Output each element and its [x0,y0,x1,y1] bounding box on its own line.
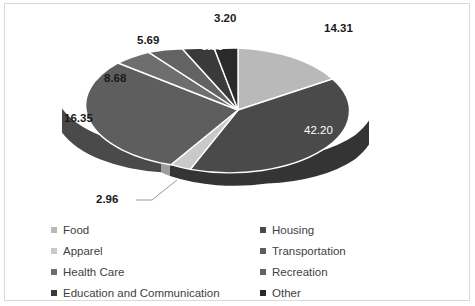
legend-swatch-icon-apparel [51,248,57,254]
legend-label-education-and-communication: Education and Communication [63,287,220,299]
data-label-recreation: 5.69 [137,34,159,46]
chart-legend: Food Apparel Health Care Education and C… [5,216,471,300]
data-label-transportation: 16.35 [64,112,93,124]
legend-item-other[interactable]: Other [260,283,346,303]
legend-item-health-care[interactable]: Health Care [51,262,220,282]
legend-item-food[interactable]: Food [51,220,220,240]
pie-side-housing-b [355,121,369,160]
data-label-housing: 42.20 [304,124,333,136]
pie-chart-svg [5,4,471,216]
legend-swatch-icon-transportation [260,248,266,254]
legend-swatch-icon-food [51,227,57,233]
legend-swatch-icon-recreation [260,269,266,275]
data-label-other: 3.20 [214,12,236,24]
legend-label-food: Food [63,224,89,236]
legend-swatch-icon-education-and-communication [51,290,57,296]
legend-item-education-and-communication[interactable]: Education and Communication [51,283,220,303]
legend-label-transportation: Transportation [272,245,346,257]
legend-item-transportation[interactable]: Transportation [260,241,346,261]
legend-label-recreation: Recreation [272,266,328,278]
legend-item-recreation[interactable]: Recreation [260,262,346,282]
legend-label-health-care: Health Care [63,266,124,278]
legend-swatch-icon-housing [260,227,266,233]
leader-line-apparel [136,180,177,200]
legend-item-apparel[interactable]: Apparel [51,241,220,261]
data-label-education-and-communication: 6.60 [201,40,223,52]
legend-label-apparel: Apparel [63,245,103,257]
data-label-health-care: 8.68 [104,72,126,84]
legend-column-left: Food Apparel Health Care Education and C… [51,220,220,304]
legend-label-housing: Housing [272,224,314,236]
legend-swatch-icon-health-care [51,269,57,275]
legend-item-housing[interactable]: Housing [260,220,346,240]
legend-column-right: Housing Transportation Recreation Other [260,220,346,304]
chart-frame: 3.20 14.31 5.69 6.60 8.68 16.35 42.20 2.… [4,3,470,301]
data-label-food: 14.31 [324,22,353,34]
data-label-apparel: 2.96 [96,193,118,205]
legend-label-other: Other [272,287,301,299]
legend-swatch-icon-other [260,290,266,296]
chart-page: 3.20 14.31 5.69 6.60 8.68 16.35 42.20 2.… [0,0,475,306]
pie-chart-plot-area: 3.20 14.31 5.69 6.60 8.68 16.35 42.20 2.… [5,4,471,216]
